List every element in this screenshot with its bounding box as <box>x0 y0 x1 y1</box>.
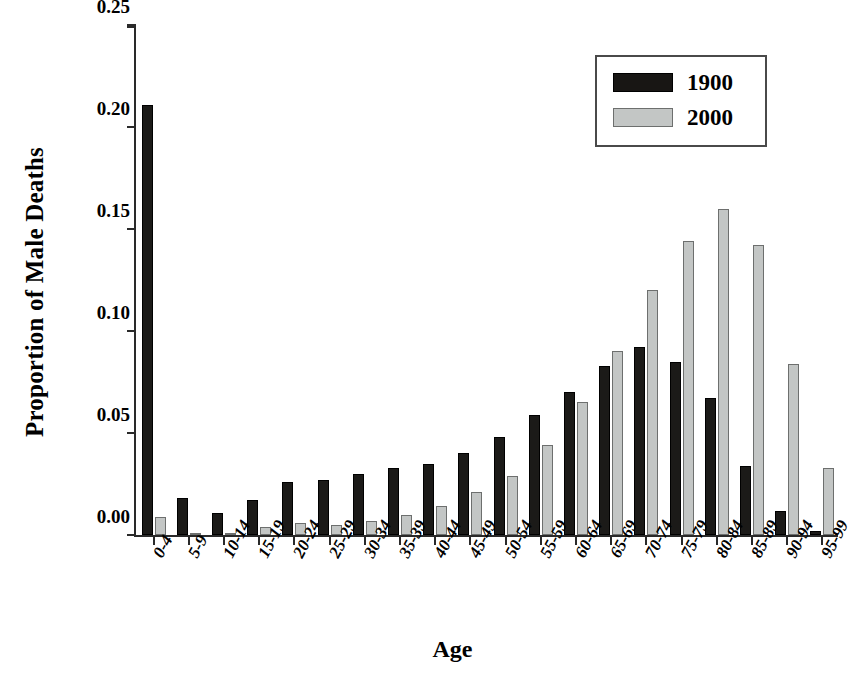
bar-1900-55-59 <box>529 415 540 535</box>
legend-swatch-2000 <box>613 108 673 127</box>
y-axis-tick-label: 0.05 <box>97 405 130 424</box>
bar-chart: Proportion of Male Deaths 0.000.050.100.… <box>0 0 860 688</box>
legend-label-1900: 1900 <box>687 71 733 94</box>
legend-item-1900: 1900 <box>613 71 733 94</box>
y-axis-tick <box>127 228 136 230</box>
bar-1900-10-14 <box>212 513 223 535</box>
bar-2000-90-94 <box>788 364 799 535</box>
bar-1900-50-54 <box>494 437 505 535</box>
y-axis-tick-label: 0.10 <box>97 303 130 322</box>
bar-1900-70-74 <box>634 347 645 535</box>
bar-2000-65-69 <box>612 351 623 535</box>
y-axis-title: Proportion of Male Deaths <box>21 82 49 502</box>
bar-2000-60-64 <box>577 402 588 535</box>
bar-2000-75-79 <box>683 241 694 535</box>
y-axis-tick-label: 0.25 <box>97 0 130 16</box>
bar-1900-60-64 <box>564 392 575 535</box>
y-axis-tick-label: 0.15 <box>97 201 130 220</box>
y-axis-tick <box>127 534 136 536</box>
y-axis-tick <box>127 432 136 434</box>
bar-2000-85-89 <box>753 245 764 535</box>
chart-legend: 1900 2000 <box>595 55 767 147</box>
bar-1900-75-79 <box>670 362 681 535</box>
y-axis-tick <box>127 126 136 128</box>
legend-swatch-1900 <box>613 73 673 92</box>
bar-1900-80-84 <box>705 398 716 535</box>
y-axis-tick <box>127 24 136 26</box>
legend-item-2000: 2000 <box>613 106 733 129</box>
bar-1900-5-9 <box>177 498 188 535</box>
bar-2000-80-84 <box>718 209 729 535</box>
x-axis-title: Age <box>0 636 860 663</box>
y-axis-tick <box>127 330 136 332</box>
bar-1900-0-4 <box>142 105 153 535</box>
legend-label-2000: 2000 <box>687 106 733 129</box>
bar-2000-70-74 <box>647 290 658 535</box>
bar-1900-65-69 <box>599 366 610 535</box>
y-axis-tick-label: 0.00 <box>97 507 130 526</box>
y-axis-tick-label: 0.20 <box>97 99 130 118</box>
